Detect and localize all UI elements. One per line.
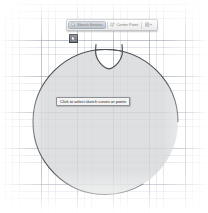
handle-glyph-icon [70, 35, 77, 42]
selection-hint-tooltip-text: Click to select sketch curves or points [60, 99, 126, 104]
toolbar-button-sketch-entities-label: Sketch Entities [77, 23, 103, 27]
toolbar-button-options[interactable] [143, 20, 156, 30]
cursor-arrow-icon [71, 22, 76, 28]
sketch-face-fill [33, 50, 178, 195]
toolbar-button-center-point-label: Center Point [116, 23, 138, 27]
sketch-canvas[interactable]: Sketch Entities Center Point [0, 0, 208, 213]
toolbar-separator-2 [141, 22, 142, 29]
toolbar-separator-1 [107, 22, 108, 29]
options-dropdown-icon [145, 22, 153, 28]
selected-point-handle[interactable] [69, 34, 78, 43]
sketch-geometry [0, 0, 208, 213]
toolbar-button-center-point[interactable]: Center Point [108, 20, 140, 30]
sketch-context-toolbar[interactable]: Sketch Entities Center Point [66, 19, 158, 31]
selection-hint-tooltip: Click to select sketch curves or points [56, 97, 130, 106]
center-point-icon [110, 22, 115, 28]
toolbar-button-sketch-entities[interactable]: Sketch Entities [68, 21, 106, 29]
